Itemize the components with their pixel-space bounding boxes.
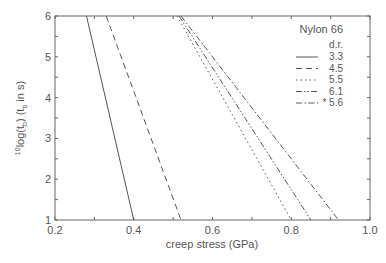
x-tick-labels: 0.20.40.60.81.0 xyxy=(47,224,377,236)
y-tick-label: 6 xyxy=(45,10,51,22)
y-tick-label: 1 xyxy=(45,214,51,226)
legend-entry-label: 5.5 xyxy=(329,74,343,85)
data-lines xyxy=(87,16,339,220)
creep-stress-chart: 0.20.40.60.81.0 123456 creep stress (GPa… xyxy=(0,0,386,263)
plot-frame xyxy=(55,16,370,220)
series-line-1 xyxy=(106,16,181,220)
legend: Nylon 66 d.r. 3.34.55.56.1* 5.6 xyxy=(296,23,343,108)
y-tick-label: 3 xyxy=(45,132,51,144)
y-tick-label: 5 xyxy=(45,51,51,63)
y-tick-label: 2 xyxy=(45,173,51,185)
series-line-4 xyxy=(181,16,339,220)
series-line-2 xyxy=(177,16,291,220)
axis-ticks xyxy=(55,16,370,220)
legend-subtitle: d.r. xyxy=(329,39,343,50)
series-line-3 xyxy=(179,16,311,220)
x-axis-label: creep stress (GPa) xyxy=(166,238,258,250)
y-tick-label: 4 xyxy=(45,92,51,104)
legend-entry-label: 6.1 xyxy=(329,86,343,97)
x-tick-label: 0.4 xyxy=(126,224,141,236)
series-line-0 xyxy=(87,16,134,220)
legend-entry-label: 4.5 xyxy=(329,63,343,74)
legend-entry-label: 3.3 xyxy=(329,51,343,62)
legend-entry-label: * 5.6 xyxy=(322,97,343,108)
legend-title: Nylon 66 xyxy=(300,23,343,35)
y-tick-labels: 123456 xyxy=(45,10,51,226)
svg-text:10log(tb) (tb in s): 10log(tb) (tb in s) xyxy=(14,81,28,155)
x-tick-label: 0.8 xyxy=(284,224,299,236)
y-axis-label: 10log(tb) (tb in s) xyxy=(14,81,28,155)
x-tick-label: 1.0 xyxy=(362,224,377,236)
x-tick-label: 0.6 xyxy=(205,224,220,236)
